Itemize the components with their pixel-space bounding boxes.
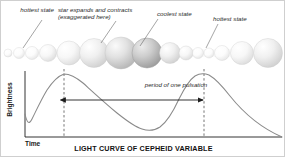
annotation-hottest-state-right: hottest state — [213, 15, 247, 22]
y-axis-label: Brightness — [6, 76, 13, 124]
star-sphere — [215, 46, 230, 61]
star-sphere — [160, 43, 181, 64]
annotation-coolest-state: coolest state — [157, 10, 192, 17]
star-sphere — [179, 46, 193, 60]
leader-hottest-left — [23, 20, 42, 48]
star-sphere — [254, 39, 283, 68]
star-sphere — [57, 41, 81, 65]
star-sphere — [231, 42, 254, 65]
cepheid-variable-figure: hottest state star expands and contracts… — [0, 0, 285, 157]
star-sphere — [80, 39, 109, 68]
star-sphere-hottest — [204, 48, 214, 58]
chart-title: LIGHT CURVE OF CEPHEID VARIABLE — [1, 144, 285, 153]
leader-hottest-right — [206, 24, 218, 48]
star-sphere — [193, 48, 204, 59]
star-sphere-group — [4, 37, 283, 69]
annotation-hottest-state-left: hottest state — [20, 6, 54, 13]
annotation-period-of-one-pulsation: period of one pulsation — [144, 81, 208, 88]
star-sphere — [4, 49, 12, 57]
light-curve-chart — [25, 69, 282, 137]
star-sphere — [40, 45, 57, 62]
figure-canvas — [1, 1, 285, 157]
annotation-star-expands-contracts: star expands and contracts (exaggerated … — [58, 6, 150, 20]
star-sphere — [26, 47, 39, 60]
star-sphere-coolest — [132, 38, 162, 68]
star-sphere — [14, 48, 25, 59]
